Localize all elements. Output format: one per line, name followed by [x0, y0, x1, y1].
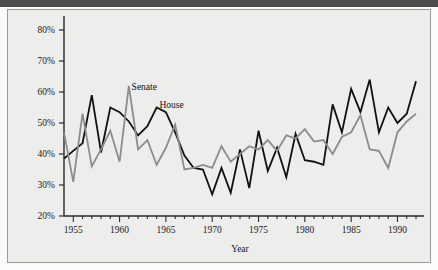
x-axis-label: Year [231, 244, 249, 254]
series-line-house [64, 80, 416, 195]
y-tick-label: 80% [38, 25, 56, 35]
y-tick-label: 40% [38, 149, 56, 159]
x-tick-label: 1955 [64, 225, 83, 235]
line-chart-plot: 20%30%40%50%60%70%80% 195519601965197019… [8, 10, 430, 262]
y-tick-label: 70% [38, 56, 56, 66]
x-tick-label: 1990 [388, 225, 407, 235]
y-tick-label: 60% [38, 87, 56, 97]
y-axis-ticks: 20%30%40%50%60%70%80% [38, 25, 64, 221]
x-tick-label: 1960 [110, 225, 129, 235]
x-tick-label: 1975 [249, 225, 268, 235]
chart-figure: 20%30%40%50%60%70%80% 195519601965197019… [0, 0, 438, 270]
y-tick-label: 50% [38, 118, 56, 128]
x-tick-label: 1980 [295, 225, 314, 235]
series-annotations: SenateHouse [132, 82, 184, 109]
x-axis-ticks: 19551960196519701975198019851990 [64, 216, 416, 235]
header-bar [0, 0, 438, 7]
chart-frame: 20%30%40%50%60%70%80% 195519601965197019… [7, 9, 431, 263]
y-tick-label: 30% [38, 180, 56, 190]
x-tick-label: 1965 [156, 225, 175, 235]
series-label-senate: Senate [132, 82, 157, 92]
data-series-group [64, 80, 416, 195]
y-tick-label: 20% [38, 211, 56, 221]
x-tick-label: 1985 [342, 225, 361, 235]
x-tick-label: 1970 [203, 225, 222, 235]
series-label-house: House [159, 100, 183, 110]
